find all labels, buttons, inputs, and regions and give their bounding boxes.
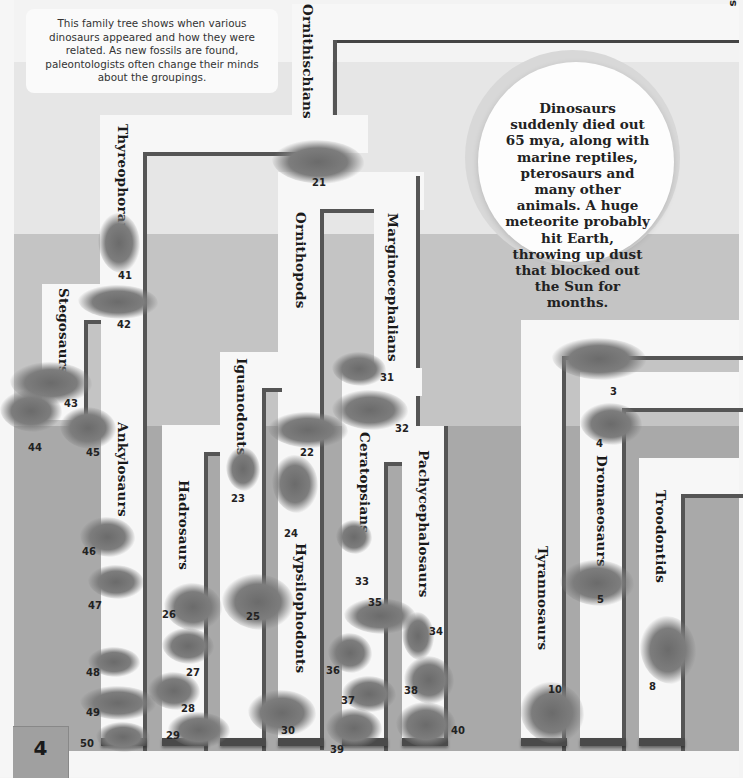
specimen-number-5: 5 xyxy=(597,594,604,605)
branch-foot-dromaeosaurs xyxy=(580,738,626,746)
specimen-number-46: 46 xyxy=(82,546,96,557)
label-troodontids: Troodontids xyxy=(653,490,669,583)
branch-foot-troodontids xyxy=(639,738,685,746)
specimen-number-34: 34 xyxy=(429,626,443,637)
specimen-number-38: 38 xyxy=(404,685,418,696)
specimen-number-10: 10 xyxy=(548,684,562,695)
specimen-number-50: 50 xyxy=(80,738,94,749)
specimen-number-47: 47 xyxy=(88,600,102,611)
label-tyrannosaurs: Tyrannosaurs xyxy=(535,546,551,650)
label-hypsilophodonts: Hypsilophodonts xyxy=(293,543,309,673)
specimen-number-23: 23 xyxy=(231,493,245,504)
specimen-number-28: 28 xyxy=(181,703,195,714)
specimen-number-37: 37 xyxy=(341,695,355,706)
page-number: 4 xyxy=(13,736,68,760)
label-marginocephalians: Marginocephalians xyxy=(385,213,401,362)
branch-line-cerapoda xyxy=(320,209,378,373)
specimen-number-4: 4 xyxy=(596,438,603,449)
specimen-number-35: 35 xyxy=(368,597,382,608)
specimen-number-27: 27 xyxy=(186,667,200,678)
branch-foot-hypsilophodonts xyxy=(278,738,324,746)
branch-line-ornithischians-vertical xyxy=(333,40,337,125)
branch-ornithischians-top xyxy=(292,4,739,40)
specimen-number-33: 33 xyxy=(355,576,369,587)
callout-text: Dinosaurs suddenly died out 65 mya, alon… xyxy=(505,100,650,311)
specimen-number-26: 26 xyxy=(162,609,176,620)
branch-line-top xyxy=(333,40,739,43)
specimen-number-49: 49 xyxy=(86,707,100,718)
specimen-number-31: 31 xyxy=(380,372,394,383)
label-dromaeosaurs: Dromaeosaurs xyxy=(594,455,610,567)
specimen-number-41: 41 xyxy=(118,270,132,281)
label-ornithopods: Ornithopods xyxy=(293,212,309,309)
specimen-number-29: 29 xyxy=(166,730,180,741)
label-ankylosaurs: Ankylosaurs xyxy=(115,422,131,517)
label-ornithischians: Ornithischians xyxy=(300,4,316,119)
specimen-number-24: 24 xyxy=(284,528,298,539)
specimen-number-40: 40 xyxy=(451,725,465,736)
label-iguanodonts: Iguanodonts xyxy=(234,358,250,455)
specimen-number-43: 43 xyxy=(64,398,78,409)
intro-text: This family tree shows when various dino… xyxy=(32,17,272,85)
cutoff-label: s xyxy=(727,0,740,7)
specimen-number-48: 48 xyxy=(86,667,100,678)
intro-text-box: This family tree shows when various dino… xyxy=(26,9,278,93)
page-margin xyxy=(0,0,14,777)
specimen-number-25: 25 xyxy=(246,611,260,622)
specimen-number-44: 44 xyxy=(28,442,42,453)
specimen-number-42: 42 xyxy=(117,319,131,330)
specimen-number-32: 32 xyxy=(395,423,409,434)
branch-line-ornithopods xyxy=(320,210,324,750)
specimen-number-39: 39 xyxy=(330,744,344,755)
specimen-number-22: 22 xyxy=(300,447,314,458)
specimen-number-30: 30 xyxy=(281,725,295,736)
branch-line-troodontids xyxy=(681,494,743,752)
label-ceratopsians: Ceratopsians xyxy=(357,432,373,533)
specimen-number-8: 8 xyxy=(649,681,656,692)
specimen-number-21: 21 xyxy=(312,177,326,188)
label-pachycephalosaurs: Pachycephalosaurs xyxy=(416,450,432,598)
label-hadrosaurs: Hadrosaurs xyxy=(176,480,192,570)
specimen-number-36: 36 xyxy=(326,665,340,676)
label-stegosaurs: Stegosaurs xyxy=(56,288,72,374)
page-bottom-margin xyxy=(0,751,739,777)
specimen-number-45: 45 xyxy=(86,447,100,458)
specimen-number-3: 3 xyxy=(610,386,617,397)
